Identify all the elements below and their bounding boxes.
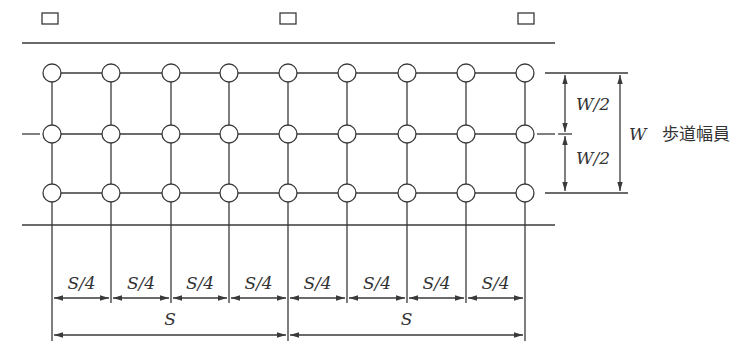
measurement-point bbox=[516, 125, 534, 143]
label-sidewalk-width: 歩道幅員 bbox=[662, 124, 730, 144]
label-quarter-span: S/4 bbox=[422, 273, 450, 293]
label-quarter-span: S/4 bbox=[67, 273, 95, 293]
measurement-point bbox=[102, 184, 120, 202]
measurement-point bbox=[338, 64, 356, 82]
measurement-point bbox=[516, 64, 534, 82]
measurement-point bbox=[457, 184, 475, 202]
measurement-point bbox=[516, 184, 534, 202]
measurement-point bbox=[398, 125, 416, 143]
label-width: W bbox=[629, 124, 648, 144]
measurement-point bbox=[398, 184, 416, 202]
measurement-point bbox=[43, 64, 61, 82]
measurement-point bbox=[338, 125, 356, 143]
measurement-point bbox=[338, 184, 356, 202]
measurement-point bbox=[220, 64, 238, 82]
lamp-icon bbox=[42, 13, 58, 24]
label-quarter-span: S/4 bbox=[127, 273, 155, 293]
measurement-point bbox=[43, 125, 61, 143]
measurement-grid bbox=[43, 64, 534, 341]
label-span: S bbox=[401, 309, 413, 329]
measurement-point bbox=[457, 125, 475, 143]
lamp-icon bbox=[280, 13, 296, 24]
measurement-point bbox=[102, 125, 120, 143]
lamps bbox=[42, 13, 534, 24]
measurement-point bbox=[279, 184, 297, 202]
measurement-point bbox=[457, 64, 475, 82]
measurement-point bbox=[279, 125, 297, 143]
label-quarter-span: S/4 bbox=[363, 273, 391, 293]
measurement-point bbox=[398, 64, 416, 82]
label-half-width-top: W/2 bbox=[576, 94, 610, 114]
label-half-width-bottom: W/2 bbox=[576, 148, 610, 168]
lighting-grid-diagram: W/2 W/2 W 歩道幅員 S/4S/4S/4S/4S/4S/4S/4S/4S… bbox=[0, 0, 746, 363]
measurement-point bbox=[279, 64, 297, 82]
measurement-point bbox=[43, 184, 61, 202]
measurement-point bbox=[220, 125, 238, 143]
label-quarter-span: S/4 bbox=[303, 273, 331, 293]
label-quarter-span: S/4 bbox=[186, 273, 214, 293]
lamp-icon bbox=[518, 13, 534, 24]
measurement-point bbox=[162, 64, 180, 82]
measurement-point bbox=[102, 64, 120, 82]
label-quarter-span: S/4 bbox=[481, 273, 509, 293]
label-span: S bbox=[164, 309, 176, 329]
label-quarter-span: S/4 bbox=[244, 273, 272, 293]
measurement-point bbox=[162, 184, 180, 202]
measurement-point bbox=[220, 184, 238, 202]
measurement-point bbox=[162, 125, 180, 143]
width-dimension: W/2 W/2 W 歩道幅員 bbox=[545, 73, 730, 193]
